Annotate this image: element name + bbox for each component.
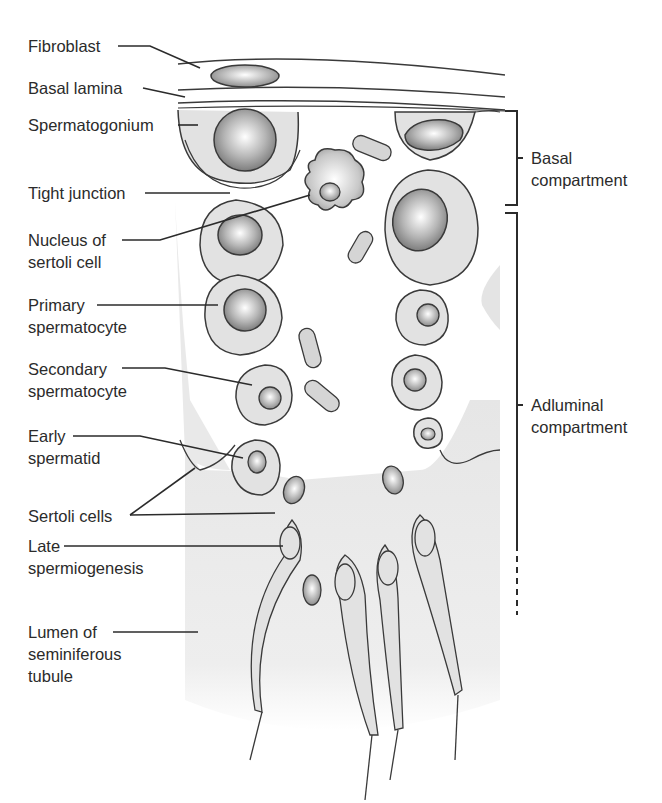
label-text: Basal lamina	[28, 77, 122, 99]
fibroblast-shape	[178, 59, 505, 87]
label-text: tubule	[28, 665, 122, 687]
label-text: seminiferous	[28, 643, 122, 665]
label-fibroblast: Fibroblast	[28, 35, 100, 57]
spermatid-nucleus-lower	[303, 575, 321, 605]
label-text: Primary	[28, 294, 127, 316]
seminiferous-tubule-diagram: Fibroblast Basal lamina Spermatogonium T…	[0, 0, 662, 803]
label-text: Basal	[531, 147, 627, 169]
label-lumen: Lumen of seminiferous tubule	[28, 621, 122, 687]
label-basal-lamina: Basal lamina	[28, 77, 122, 99]
label-text: sertoli cell	[28, 251, 106, 273]
label-tight-junction: Tight junction	[28, 182, 126, 204]
label-text: Late	[28, 535, 144, 557]
primary-spermatocyte-upper	[200, 200, 283, 285]
label-text: spermatid	[28, 447, 100, 469]
label-primary-spermatocyte: Primary spermatocyte	[28, 294, 127, 338]
label-sertoli-cells: Sertoli cells	[28, 505, 112, 527]
label-text: Sertoli cells	[28, 505, 112, 527]
label-text: compartment	[531, 416, 627, 438]
label-text: Adluminal	[531, 394, 627, 416]
label-basal-compartment: Basal compartment	[531, 147, 627, 191]
label-secondary-spermatocyte: Secondary spermatocyte	[28, 358, 127, 402]
compartment-brackets	[505, 111, 523, 615]
label-text: spermatocyte	[28, 380, 127, 402]
label-text: spermatocyte	[28, 316, 127, 338]
label-text: Spermatogonium	[28, 114, 154, 136]
label-text: compartment	[531, 169, 627, 191]
label-early-spermatid: Early spermatid	[28, 425, 100, 469]
label-text: Lumen of	[28, 621, 122, 643]
label-text: Fibroblast	[28, 35, 100, 57]
spermatogonium-left	[178, 109, 300, 188]
label-late-spermiogenesis: Late spermiogenesis	[28, 535, 144, 579]
label-text: spermiogenesis	[28, 557, 144, 579]
label-adluminal-compartment: Adluminal compartment	[531, 394, 627, 438]
label-text: Nucleus of	[28, 229, 106, 251]
secondary-spermatocyte-right	[392, 290, 448, 448]
sertoli-nucleus	[305, 149, 364, 210]
label-nucleus-of-sertoli-cell: Nucleus of sertoli cell	[28, 229, 106, 273]
label-text: Secondary	[28, 358, 127, 380]
secondary-spermatocyte-left	[236, 365, 292, 425]
sertoli-bulge-right	[481, 265, 500, 330]
label-text: Early	[28, 425, 100, 447]
primary-spermatocyte-right	[385, 170, 478, 285]
label-text: Tight junction	[28, 182, 126, 204]
primary-spermatocyte-lower	[205, 275, 282, 355]
basal-lamina-lines	[178, 87, 505, 111]
label-spermatogonium: Spermatogonium	[28, 114, 154, 136]
spermatogonium-right	[395, 111, 500, 160]
